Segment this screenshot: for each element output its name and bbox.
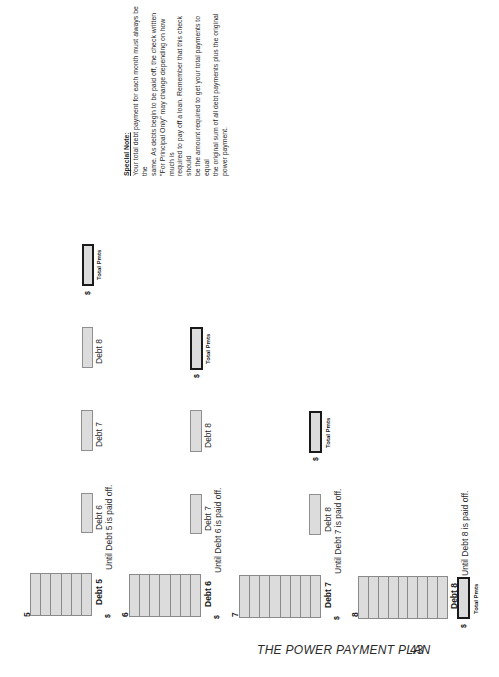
book-title-footer: THE POWER PAYMENT PLAN	[257, 643, 431, 657]
payment-box-debt-8[interactable]	[309, 494, 321, 535]
bar-segment	[369, 577, 379, 618]
bar-segment	[250, 576, 260, 617]
bar-segment	[418, 577, 428, 618]
bar-segment	[150, 575, 160, 616]
bar-segment	[270, 576, 280, 617]
bar-segment	[399, 577, 409, 618]
bar-segment	[62, 574, 72, 615]
bar-segment	[140, 575, 150, 616]
box-label: Debt 7	[94, 422, 104, 447]
bar-segment	[359, 577, 369, 618]
bar-segment	[428, 577, 438, 618]
bar-segment	[408, 577, 418, 618]
special-note-line: Your total debt payment for each month m…	[132, 6, 148, 176]
box-label: Debt 8	[203, 423, 213, 448]
total-payments-label: Total Pmts	[473, 584, 480, 614]
bar-segment	[438, 577, 447, 618]
special-note-title: Special Note:	[123, 1, 132, 176]
payment-stack-bar	[239, 575, 321, 618]
dollar-sign: $	[333, 616, 341, 620]
until-paid-text: Until Debt 7 is paid off.	[333, 489, 343, 574]
debt-label: Debt 5	[94, 579, 104, 605]
payment-box-debt-8[interactable]	[82, 327, 93, 368]
special-note-line: same. As debts begin to be paid off, the…	[150, 13, 157, 176]
total-dollar-sign: $	[193, 374, 201, 378]
bar-segment	[31, 574, 41, 615]
until-paid-text: Until Debt 5 is paid off.	[104, 485, 114, 570]
special-note-line: "For Principal Only" may change dependin…	[159, 19, 175, 176]
bar-segment	[191, 575, 200, 616]
box-label: Debt 7	[203, 506, 213, 531]
special-note-line: the original sum of all debt payments pl…	[212, 14, 219, 176]
total-dollar-sign: $	[460, 624, 468, 628]
bar-segment	[72, 574, 82, 615]
bar-segment	[301, 576, 311, 617]
debt-label: Debt 6	[203, 581, 213, 607]
special-note-line: power payment.	[221, 127, 228, 176]
dollar-sign: $	[213, 615, 221, 619]
bar-segment	[389, 577, 399, 618]
total-payments-box[interactable]	[190, 327, 203, 370]
bar-segment	[281, 576, 291, 617]
bar-segment	[82, 574, 91, 615]
bar-segment	[181, 575, 191, 616]
bar-segment	[160, 575, 170, 616]
total-dollar-sign: $	[312, 457, 320, 461]
until-paid-text: Until Debt 6 is paid off.	[213, 488, 223, 573]
total-payments-label: Total Pmts	[325, 418, 332, 448]
dollar-sign: $	[104, 614, 112, 618]
payment-box-debt-6[interactable]	[81, 493, 93, 533]
special-note: Special Note: Your total debt payment fo…	[123, 1, 230, 176]
bar-segment	[41, 574, 51, 615]
payment-stack-bar	[30, 573, 92, 616]
special-note-line: be the amount required to get your total…	[194, 16, 210, 176]
bar-segment	[240, 576, 250, 617]
until-paid-text: Until Debt 8 is paid off.	[460, 491, 470, 576]
payment-box-debt-7[interactable]	[190, 494, 202, 534]
total-payments-box[interactable]	[309, 411, 322, 453]
total-payments-box[interactable]	[82, 244, 94, 286]
bar-segment	[260, 576, 270, 617]
bar-segment	[311, 576, 320, 617]
page-number: 43	[410, 643, 423, 657]
box-label: Debt 8	[94, 339, 104, 364]
payment-box-debt-8[interactable]	[190, 410, 202, 452]
bar-segment	[51, 574, 61, 615]
bar-segment	[130, 575, 140, 616]
bar-segment	[379, 577, 389, 618]
bar-segment	[291, 576, 301, 617]
box-label: Debt 8	[323, 507, 333, 532]
payment-stack-bar	[129, 574, 201, 617]
total-payments-box[interactable]	[457, 577, 470, 619]
special-note-line: required to pay off a loan. Remember tha…	[176, 16, 192, 176]
bar-segment	[171, 575, 181, 616]
box-label: Debt 6	[94, 505, 104, 530]
payment-box-debt-7[interactable]	[81, 410, 93, 451]
payment-stack-bar	[358, 576, 448, 619]
total-payments-label: Total Pmts	[96, 250, 103, 280]
total-dollar-sign: $	[84, 291, 92, 295]
debt-label: Debt 7	[323, 582, 333, 608]
total-payments-label: Total Pmts	[205, 334, 212, 364]
